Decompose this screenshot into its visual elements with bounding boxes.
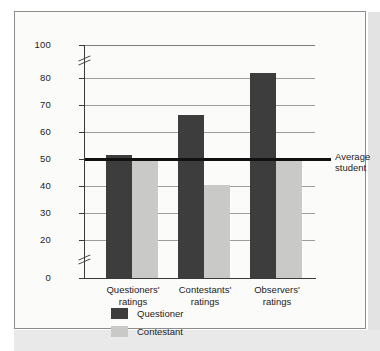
y-tick-label-0: 0 bbox=[46, 272, 51, 283]
gridline-100 bbox=[85, 45, 315, 46]
bar-questioner-observers-ratings bbox=[250, 73, 276, 278]
legend-item-contestant: Contestant bbox=[111, 324, 183, 338]
average-student-label-line1: Average bbox=[335, 151, 370, 162]
chart-panel: Mean rating of general knowledge Average… bbox=[14, 11, 366, 329]
average-student-line bbox=[84, 158, 331, 161]
y-tick-60 bbox=[79, 132, 85, 133]
chart-legend: Questioner Contestant bbox=[111, 306, 183, 342]
legend-label-questioner: Questioner bbox=[137, 308, 183, 319]
bar-contestant-contestants-ratings bbox=[204, 185, 230, 278]
bar-questioner-questioners-ratings bbox=[106, 155, 132, 278]
gridline-80 bbox=[85, 78, 315, 79]
y-tick-label-20: 20 bbox=[40, 234, 51, 245]
average-student-label-line2: student bbox=[335, 162, 370, 173]
y-tick-40 bbox=[79, 186, 85, 187]
y-tick-80 bbox=[79, 78, 85, 79]
y-tick-20 bbox=[79, 240, 85, 241]
y-tick-label-50: 50 bbox=[40, 153, 51, 164]
y-tick-label-30: 30 bbox=[40, 207, 51, 218]
gridline-70 bbox=[85, 105, 315, 106]
panel-shadow-right bbox=[368, 12, 380, 351]
legend-swatch-contestant bbox=[111, 326, 128, 337]
y-tick-label-70: 70 bbox=[40, 99, 51, 110]
y-tick-0 bbox=[79, 278, 85, 279]
y-tick-30 bbox=[79, 213, 85, 214]
y-tick-50 bbox=[79, 159, 85, 160]
panel-shadow-bottom bbox=[14, 330, 380, 351]
y-axis-line bbox=[84, 45, 85, 279]
legend-label-contestant: Contestant bbox=[137, 326, 183, 337]
y-tick-70 bbox=[79, 105, 85, 106]
x-label-observers-ratings: Observers' ratings bbox=[227, 284, 327, 307]
bar-contestant-questioners-ratings bbox=[132, 159, 158, 278]
legend-swatch-questioner bbox=[111, 308, 128, 319]
y-tick-label-60: 60 bbox=[40, 126, 51, 137]
x-label-observers-ratings-line1: Observers' bbox=[227, 284, 327, 296]
x-label-observers-ratings-line2: ratings bbox=[227, 296, 327, 308]
bar-questioner-contestants-ratings bbox=[178, 115, 204, 278]
bar-contestant-observers-ratings bbox=[276, 160, 302, 278]
figure-root: Mean rating of general knowledge Average… bbox=[0, 0, 380, 351]
x-axis-line bbox=[84, 278, 316, 279]
y-tick-label-40: 40 bbox=[40, 180, 51, 191]
y-tick-label-100: 100 bbox=[35, 39, 51, 50]
y-tick-100 bbox=[79, 45, 85, 46]
y-tick-label-80: 80 bbox=[40, 72, 51, 83]
legend-item-questioner: Questioner bbox=[111, 306, 183, 320]
